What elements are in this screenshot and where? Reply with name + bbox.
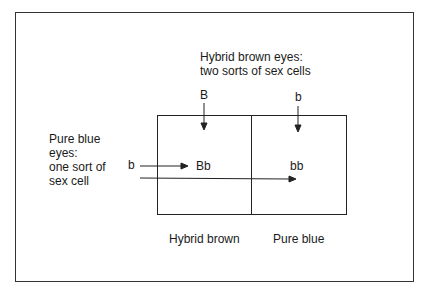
arrow-down-B-icon bbox=[201, 103, 207, 130]
arrow-down-b-icon bbox=[295, 106, 301, 132]
arrow-right-to-Bb-icon bbox=[140, 163, 188, 169]
arrows-layer bbox=[0, 0, 428, 294]
arrow-right-to-bb-icon bbox=[140, 176, 296, 182]
